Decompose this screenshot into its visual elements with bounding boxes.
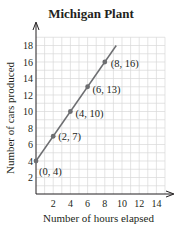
x-tick-label: 12 bbox=[134, 198, 144, 209]
data-point-label: (4, 10) bbox=[75, 108, 103, 120]
y-tick-label: 8 bbox=[28, 123, 33, 134]
y-tick-label: 4 bbox=[28, 156, 33, 167]
x-tick-label: 6 bbox=[85, 198, 90, 209]
data-point bbox=[85, 84, 90, 89]
x-tick-label: 2 bbox=[51, 198, 56, 209]
data-point-label: (0, 4) bbox=[39, 166, 62, 178]
x-tick-label: 10 bbox=[117, 198, 127, 209]
y-tick-label: 12 bbox=[23, 90, 33, 101]
y-tick-label: 10 bbox=[23, 106, 33, 117]
x-tick-label: 8 bbox=[102, 198, 107, 209]
data-point-label: (2, 7) bbox=[58, 131, 81, 143]
data-point-label: (8, 16) bbox=[111, 58, 139, 70]
data-point bbox=[51, 134, 56, 139]
y-tick-label: 14 bbox=[23, 73, 33, 84]
data-point bbox=[34, 159, 39, 164]
y-tick-label: 16 bbox=[23, 57, 33, 68]
data-point bbox=[102, 60, 107, 65]
data-point-label: (6, 13) bbox=[93, 84, 121, 96]
x-tick-label: 4 bbox=[68, 198, 73, 209]
data-point bbox=[68, 109, 73, 114]
y-tick-label: 18 bbox=[23, 40, 33, 51]
y-tick-label: 2 bbox=[28, 172, 33, 183]
y-tick-label: 6 bbox=[28, 139, 33, 150]
plot-area: 246810121424681012141618(0, 4)(2, 7)(4, … bbox=[0, 0, 182, 235]
x-tick-label: 14 bbox=[151, 198, 161, 209]
